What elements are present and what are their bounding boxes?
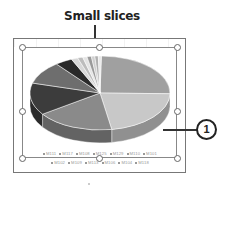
legend-label: M106	[105, 160, 116, 165]
legend-label: M104	[121, 160, 132, 165]
pie-slice-M111[interactable]	[100, 56, 170, 94]
legend-entry[interactable]: M109	[68, 160, 82, 165]
legend-entry[interactable]: M129	[110, 151, 124, 156]
legend-label: M108	[79, 151, 90, 156]
legend-entry[interactable]: M110	[127, 151, 141, 156]
legend-entry[interactable]: M111	[43, 151, 56, 156]
legend-label: M113	[88, 160, 99, 165]
legend-entry[interactable]: M118	[135, 160, 149, 165]
legend-entry[interactable]: M113	[85, 160, 99, 165]
legend-entry[interactable]: M102	[51, 160, 65, 165]
legend-label: M101	[146, 151, 157, 156]
legend-swatch-icon	[135, 162, 137, 164]
legend-swatch-icon	[51, 162, 53, 164]
pie-slices	[30, 56, 170, 130]
legend-label: M110	[130, 151, 141, 156]
legend-row-1: M111M117M108M125M129M110M101	[30, 151, 170, 156]
legend-label: M129	[113, 151, 124, 156]
legend-swatch-icon	[102, 162, 104, 164]
legend-swatch-icon	[143, 153, 145, 155]
legend-entry[interactable]: M108	[76, 151, 90, 156]
decorative-dot	[88, 183, 90, 185]
legend-swatch-icon	[85, 162, 87, 164]
legend-swatch-icon	[110, 153, 112, 155]
legend-label: M118	[138, 160, 149, 165]
legend-entry[interactable]: M125	[93, 151, 107, 156]
legend-label: M117	[62, 151, 73, 156]
legend-label: M109	[71, 160, 82, 165]
legend-entry[interactable]: M104	[118, 160, 132, 165]
legend-entry[interactable]: M117	[59, 151, 73, 156]
legend-swatch-icon	[68, 162, 70, 164]
legend-swatch-icon	[43, 153, 45, 155]
legend-label: M111	[46, 151, 56, 156]
legend-swatch-icon	[93, 153, 95, 155]
legend-label: M102	[54, 160, 65, 165]
legend-swatch-icon	[59, 153, 61, 155]
legend-row-2: M102M109M113M106M104M118	[30, 160, 170, 165]
legend-label: M125	[96, 151, 107, 156]
legend-swatch-icon	[76, 153, 78, 155]
callout-1-badge: 1	[196, 119, 217, 140]
legend-entry[interactable]: M101	[143, 151, 157, 156]
legend-swatch-icon	[127, 153, 129, 155]
callout-1-pointer-line	[163, 129, 197, 131]
legend-entry[interactable]: M106	[102, 160, 116, 165]
